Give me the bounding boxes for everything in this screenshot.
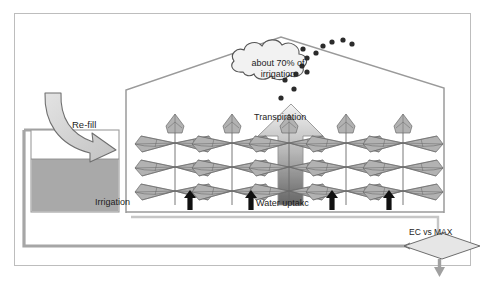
water-uptake-label: Water uptakc [256, 199, 309, 208]
greenhouse-water-diagram [0, 0, 501, 282]
refill-label: Re-fill [72, 120, 96, 130]
transpiration-label: Transpiration [254, 113, 306, 122]
vapour-dot [340, 37, 345, 42]
vapour-dot [313, 50, 318, 55]
cloud-label: about 70% of irrigation [241, 58, 315, 81]
diagram-canvas: Re-fill about 70% of irrigation Transpir… [0, 0, 501, 282]
vapour-dot [329, 39, 334, 44]
vapour-dot [320, 43, 325, 48]
vapour-dot [349, 41, 354, 46]
irrigation-label: Irrigation [95, 198, 130, 207]
vapour-dot [300, 46, 305, 51]
ec-vs-max-label: EC vs MAX [409, 228, 452, 237]
vapour-dot [278, 95, 283, 100]
vapour-dot [291, 86, 296, 91]
